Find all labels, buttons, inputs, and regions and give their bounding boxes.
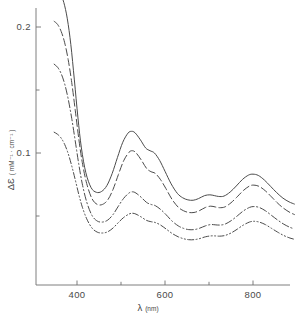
y-tick-label: 0.2: [17, 21, 31, 32]
x-axis-title: λ(nm): [137, 302, 158, 313]
x-tick-label: 400: [68, 289, 85, 300]
svg-text:ΔƐ( mM⁻¹ · cm⁻¹ ): ΔƐ( mM⁻¹ · cm⁻¹ ): [5, 130, 16, 191]
x-axis-symbol: λ: [137, 302, 142, 313]
y-axis-tick-labels: 0.10.2: [17, 21, 31, 158]
spectrum-curve: [54, 64, 294, 230]
y-axis-title: ΔƐ( mM⁻¹ · cm⁻¹ ): [5, 130, 16, 191]
x-tick-label: 800: [244, 289, 261, 300]
spectrum-curve: [54, 0, 294, 204]
y-axis-symbol: ΔƐ: [5, 178, 16, 190]
spectrum-figure: 400600800 0.10.2 λ(nm) ΔƐ( mM⁻¹ · cm⁻¹ ): [0, 0, 296, 317]
x-axis-unit: (nm): [145, 305, 158, 313]
spectrum-chart: 400600800 0.10.2 λ(nm) ΔƐ( mM⁻¹ · cm⁻¹ ): [0, 0, 296, 317]
x-axis-ticks: [77, 281, 253, 286]
y-tick-label: 0.1: [17, 147, 31, 158]
svg-text:λ(nm): λ(nm): [137, 302, 158, 313]
y-axis-unit: ( mM⁻¹ · cm⁻¹ ): [8, 130, 16, 176]
x-tick-label: 600: [156, 289, 173, 300]
curves-group: [54, 0, 294, 240]
x-axis-tick-labels: 400600800: [68, 289, 261, 300]
y-axis-ticks: [36, 27, 41, 216]
axes-group: [36, 8, 290, 285]
